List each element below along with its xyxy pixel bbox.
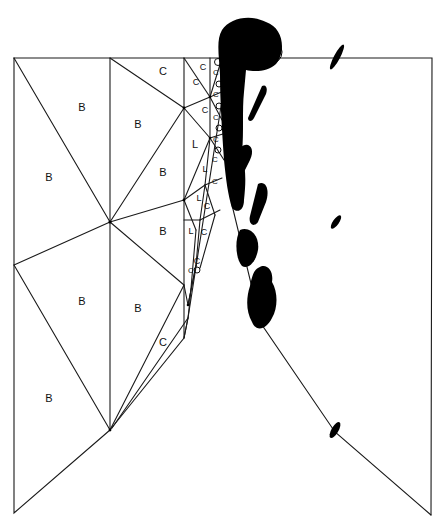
region-label: B [134, 302, 141, 314]
region-label: C [204, 201, 211, 211]
region-label: B [45, 392, 52, 404]
region-label: B [45, 171, 52, 183]
region-label: L [192, 138, 198, 150]
region-label: C [212, 155, 218, 164]
region-label: C [213, 68, 219, 77]
region-label: B [78, 295, 85, 307]
region-label: C [159, 65, 167, 77]
region-label: B [159, 225, 166, 237]
region-label: C [213, 113, 219, 122]
region-label: C [193, 77, 200, 87]
coarse-mesh [14, 58, 184, 430]
region-label: C [159, 336, 167, 348]
region-label: L [196, 193, 201, 203]
region-label: C [200, 62, 207, 72]
region-label: B [134, 118, 141, 130]
mesh-diagram: CBBBBLBBBCBCCCCCCCLCCLLCCCC [0, 0, 442, 528]
fine-mesh [112, 58, 226, 428]
region-label: C [202, 105, 209, 115]
region-label: L [202, 164, 207, 174]
region-labels: CBBBBLBBBCBCCCCCCCLCCLLCCCC [45, 62, 219, 404]
region-label: C [213, 135, 219, 144]
region-label: C [201, 227, 208, 237]
region-label: B [78, 101, 85, 113]
region-label: C [212, 177, 218, 186]
region-label: L [188, 226, 193, 236]
region-label: C [194, 256, 201, 266]
region-label: C [213, 90, 219, 99]
region-label: B [159, 166, 166, 178]
region-label: C [188, 266, 194, 275]
